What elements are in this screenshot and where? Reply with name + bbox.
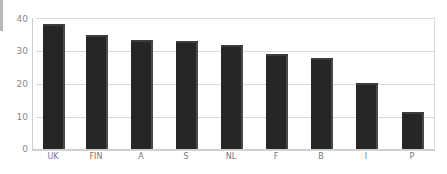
plot-frame-top bbox=[36, 18, 435, 19]
y-tick-0: 0 bbox=[4, 144, 28, 154]
x-tick-uk: UK bbox=[33, 152, 73, 161]
bar-s bbox=[176, 43, 196, 149]
bar-uk bbox=[43, 26, 63, 149]
bar-fin bbox=[86, 37, 106, 149]
x-tick-a: A bbox=[121, 152, 161, 161]
y-tick-20: 20 bbox=[4, 79, 28, 89]
x-tick-i: I bbox=[346, 152, 386, 161]
y-tick-10: 10 bbox=[4, 112, 28, 122]
y-tick-40: 40 bbox=[4, 14, 28, 24]
x-tick-s: S bbox=[166, 152, 206, 161]
bar-f bbox=[266, 56, 286, 149]
bar-a bbox=[131, 42, 151, 149]
x-tick-nl: NL bbox=[211, 152, 251, 161]
x-tick-f: F bbox=[256, 152, 296, 161]
bar-nl bbox=[221, 47, 241, 149]
bar-i bbox=[356, 85, 376, 149]
y-tick-30: 30 bbox=[4, 46, 28, 56]
x-tick-fin: FIN bbox=[76, 152, 116, 161]
bar-p bbox=[402, 114, 422, 149]
x-tick-b: B bbox=[301, 152, 341, 161]
bar-chart: 40 30 20 10 0 UKFINASNLFBIP bbox=[0, 0, 447, 174]
x-axis-floor bbox=[32, 149, 435, 151]
bar-b bbox=[311, 60, 331, 149]
y-axis-line bbox=[32, 18, 33, 150]
x-tick-p: P bbox=[392, 152, 432, 161]
